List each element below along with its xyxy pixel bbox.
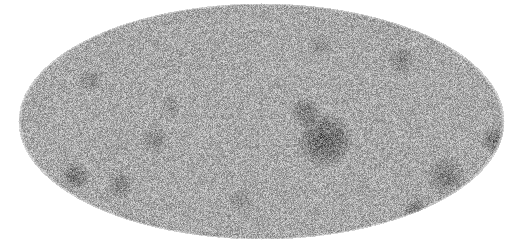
sky-map-image [0,0,520,245]
